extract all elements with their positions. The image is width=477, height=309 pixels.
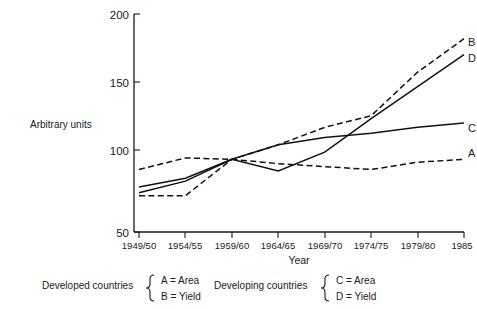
series-label-c: C (468, 122, 476, 134)
x-tick-label-1: 1954/55 (168, 240, 202, 251)
legend-developed: Developed countries A = Area B = Yield (42, 275, 201, 302)
legend-developing-entry-1: C = Area (336, 275, 376, 286)
y-axis-ticks: 200 150 100 50 (110, 9, 140, 239)
legend-developed-group-label: Developed countries (42, 280, 133, 291)
series-label-a: A (468, 147, 476, 159)
x-tick-label-4: 1969/70 (308, 240, 342, 251)
x-tick-label-6: 1979/80 (401, 240, 435, 251)
legend-developed-brace (146, 275, 154, 301)
series-line-c (139, 123, 464, 187)
x-axis-title: Year (288, 254, 310, 266)
x-axis-ticks: 1949/50 1954/55 1959/60 1964/65 1969/70 … (122, 232, 473, 251)
series-label-d: D (468, 52, 476, 64)
series-end-labels: B D C A (468, 36, 476, 159)
x-tick-label-3: 1964/65 (261, 240, 295, 251)
x-tick-label-7: 1985 (451, 240, 472, 251)
series-line-a (139, 158, 464, 170)
y-tick-label-100: 100 (110, 145, 129, 157)
y-tick-label-200: 200 (110, 9, 129, 21)
legend-developing-brace (321, 275, 329, 301)
x-tick-label-0: 1949/50 (122, 240, 156, 251)
y-tick-label-150: 150 (110, 77, 129, 89)
x-tick-label-5: 1974/75 (354, 240, 388, 251)
series-line-d (139, 55, 464, 193)
legend-developed-entry-1: A = Area (161, 275, 200, 286)
legend-developing: Developing countries C = Area D = Yield (214, 275, 376, 302)
chart-series-group (139, 39, 464, 196)
series-label-b: B (468, 36, 475, 48)
x-tick-label-2: 1959/60 (215, 240, 249, 251)
legend-developing-group-label: Developing countries (214, 280, 307, 291)
series-line-b (139, 39, 464, 196)
legend-developed-entry-2: B = Yield (161, 291, 201, 302)
chart-axes (134, 14, 464, 232)
line-chart: 200 150 100 50 1949/50 1954/55 1959/60 1… (0, 0, 477, 309)
legend-developing-entry-2: D = Yield (336, 291, 376, 302)
y-tick-label-50: 50 (116, 227, 129, 239)
chart-figure: 200 150 100 50 1949/50 1954/55 1959/60 1… (0, 0, 477, 309)
y-axis-title: Arbitrary units (30, 119, 92, 130)
